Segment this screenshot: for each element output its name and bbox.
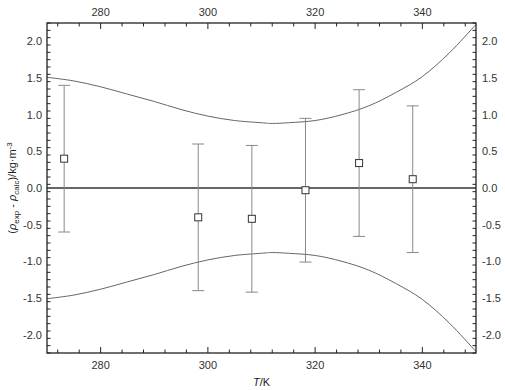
x-tick-label-bottom: 300 bbox=[199, 359, 217, 371]
y-label-sub-calc: calc bbox=[12, 181, 21, 195]
y-tick-label-right: -0.5 bbox=[482, 219, 501, 231]
data-point-marker bbox=[248, 215, 255, 222]
lower-uncertainty-curve bbox=[47, 253, 476, 352]
y-tick-label-left: -1.0 bbox=[23, 255, 42, 267]
x-tick-label-bottom: 280 bbox=[91, 359, 109, 371]
data-markers bbox=[61, 155, 417, 222]
x-axis-label-unit: /K bbox=[260, 376, 271, 388]
data-point-marker bbox=[195, 214, 202, 221]
y-tick-label-right: -2.0 bbox=[482, 329, 501, 341]
y-tick-label-right: -1.0 bbox=[482, 255, 501, 267]
y-label-rho-exp: ρ bbox=[6, 224, 18, 231]
y-tick-label-left: -1.5 bbox=[23, 292, 42, 304]
x-tick-label-top: 280 bbox=[91, 6, 109, 18]
y-label-sub-exp: exp bbox=[12, 210, 21, 223]
x-tick-label-top: 340 bbox=[413, 6, 431, 18]
x-tick-label-bottom: 320 bbox=[306, 359, 324, 371]
error-bars bbox=[58, 85, 419, 292]
y-tick-label-left: 1.5 bbox=[27, 72, 42, 84]
data-point-marker bbox=[61, 155, 68, 162]
y-axis-label: (ρexp - ρcalc)/kg·m-3 bbox=[5, 142, 21, 234]
x-axis-label: T/K bbox=[253, 376, 271, 388]
chart: 280280300300320320340340-2.0-2.0-1.5-1.5… bbox=[0, 0, 505, 390]
y-tick-label-right: 0.0 bbox=[482, 182, 497, 194]
data-point-marker bbox=[356, 160, 363, 167]
y-tick-label-left: 0.5 bbox=[27, 145, 42, 157]
y-tick-label-right: -1.5 bbox=[482, 292, 501, 304]
y-tick-label-right: 0.5 bbox=[482, 145, 497, 157]
y-tick-label-left: -2.0 bbox=[23, 329, 42, 341]
y-label-sup: -3 bbox=[5, 142, 14, 150]
y-tick-label-right: 1.5 bbox=[482, 72, 497, 84]
y-tick-label-right: 1.0 bbox=[482, 109, 497, 121]
x-tick-label-top: 300 bbox=[199, 6, 217, 18]
x-tick-label-top: 320 bbox=[306, 6, 324, 18]
y-tick-label-left: 2.0 bbox=[27, 35, 42, 47]
y-label-rho-calc: ρ bbox=[6, 195, 18, 202]
data-point-marker bbox=[302, 187, 309, 194]
x-tick-label-bottom: 340 bbox=[413, 359, 431, 371]
y-tick-label-left: 0.0 bbox=[27, 182, 42, 194]
y-tick-label-left: 1.0 bbox=[27, 109, 42, 121]
y-tick-label-left: -0.5 bbox=[23, 219, 42, 231]
data-point-marker bbox=[409, 176, 416, 183]
upper-uncertainty-curve bbox=[47, 24, 476, 123]
y-tick-label-right: 2.0 bbox=[482, 35, 497, 47]
y-label-unit: )/kg·m bbox=[6, 149, 18, 180]
y-label-minus: - bbox=[6, 201, 18, 211]
